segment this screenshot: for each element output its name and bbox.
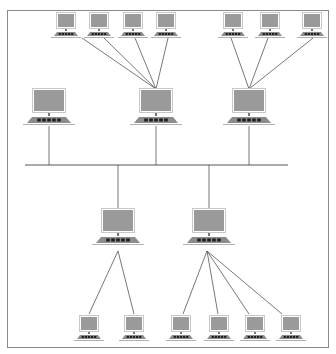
- keyboard-key: [252, 119, 256, 122]
- keyboard-key: [237, 119, 241, 122]
- keyboard-key: [296, 336, 298, 338]
- keyboard-key: [126, 33, 128, 35]
- keyboard-key: [71, 33, 73, 35]
- monitor-stand: [208, 233, 210, 236]
- keyboard-key: [266, 33, 268, 35]
- keyboard-key: [242, 119, 246, 122]
- monitor-stand: [218, 332, 220, 334]
- keyboard-key: [165, 33, 167, 35]
- keyboard-key: [133, 336, 135, 338]
- keyboard-key: [260, 336, 262, 338]
- computer-nodes: [23, 13, 327, 341]
- keyboard-key: [132, 33, 134, 35]
- keyboard-key: [269, 33, 271, 35]
- keyboard-key: [235, 33, 237, 35]
- keyboard-key: [308, 33, 310, 35]
- monitor-screen: [126, 317, 142, 330]
- monitor-screen: [173, 317, 189, 330]
- monitor-stand: [269, 29, 271, 31]
- keyboard-key: [248, 336, 250, 338]
- keyboard-key: [94, 336, 96, 338]
- keyboard-key: [59, 33, 61, 35]
- computer-icon: [276, 316, 306, 341]
- computer-icon: [218, 13, 248, 38]
- monitor-screen: [262, 14, 278, 27]
- computer-icon: [297, 13, 327, 38]
- connection-line: [89, 251, 118, 314]
- computer-icon: [119, 316, 149, 341]
- keyboard-key: [251, 336, 253, 338]
- monitor-stand: [180, 332, 182, 334]
- keyboard-key: [217, 239, 221, 242]
- keyboard-key: [47, 119, 51, 122]
- keyboard-key: [284, 336, 286, 338]
- keyboard-key: [202, 239, 206, 242]
- connection-line: [156, 38, 168, 89]
- keyboard-key: [218, 336, 220, 338]
- keyboard-key: [197, 239, 201, 242]
- keyboard-key: [275, 33, 277, 35]
- monitor-stand: [155, 113, 157, 116]
- keyboard-key: [101, 33, 103, 35]
- keyboard-key: [162, 33, 164, 35]
- connection-lines: [49, 38, 313, 314]
- monitor-screen: [211, 317, 227, 330]
- computer-icon: [204, 316, 234, 341]
- computer-icon: [223, 89, 275, 125]
- keyboard-key: [232, 33, 234, 35]
- keyboard-key: [311, 33, 313, 35]
- monitor-screen: [125, 14, 141, 27]
- keyboard-key: [116, 239, 120, 242]
- network-diagram: [0, 0, 336, 354]
- keyboard-key: [215, 336, 217, 338]
- monitor-screen: [103, 210, 133, 231]
- keyboard-key: [164, 119, 168, 122]
- monitor-screen: [194, 210, 224, 231]
- keyboard-key: [159, 33, 161, 35]
- keyboard-key: [171, 33, 173, 35]
- monitor-stand: [133, 332, 135, 334]
- computer-icon: [183, 209, 235, 245]
- keyboard-key: [257, 336, 259, 338]
- monitor-screen: [91, 14, 107, 27]
- keyboard-key: [207, 239, 211, 242]
- computer-icon: [51, 13, 81, 38]
- keyboard-key: [159, 119, 163, 122]
- monitor-stand: [48, 113, 50, 116]
- keyboard-key: [106, 239, 110, 242]
- connection-line: [207, 251, 249, 314]
- monitor-screen: [158, 14, 174, 27]
- keyboard-key: [42, 119, 46, 122]
- keyboard-key: [144, 119, 148, 122]
- computer-icon: [255, 13, 285, 38]
- monitor-stand: [117, 233, 119, 236]
- keyboard-key: [229, 33, 231, 35]
- computer-icon: [240, 316, 270, 341]
- keyboard-key: [293, 336, 295, 338]
- computer-icon: [130, 89, 182, 125]
- keyboard-key: [82, 336, 84, 338]
- monitor-stand: [65, 29, 67, 31]
- computer-icon: [92, 209, 144, 245]
- keyboard-key: [287, 336, 289, 338]
- monitor-screen: [34, 90, 64, 111]
- keyboard-key: [85, 336, 87, 338]
- computer-icon: [84, 13, 114, 38]
- keyboard-key: [139, 336, 141, 338]
- keyboard-key: [238, 33, 240, 35]
- connection-line: [183, 251, 207, 314]
- keyboard-key: [91, 336, 93, 338]
- keyboard-key: [290, 336, 292, 338]
- keyboard-key: [212, 336, 214, 338]
- monitor-screen: [81, 317, 97, 330]
- connection-line: [207, 251, 218, 314]
- keyboard-key: [88, 336, 90, 338]
- keyboard-key: [174, 336, 176, 338]
- keyboard-key: [104, 33, 106, 35]
- keyboard-key: [65, 33, 67, 35]
- keyboard-key: [136, 336, 138, 338]
- keyboard-key: [168, 33, 170, 35]
- keyboard-key: [183, 336, 185, 338]
- keyboard-key: [111, 239, 115, 242]
- keyboard-key: [247, 119, 251, 122]
